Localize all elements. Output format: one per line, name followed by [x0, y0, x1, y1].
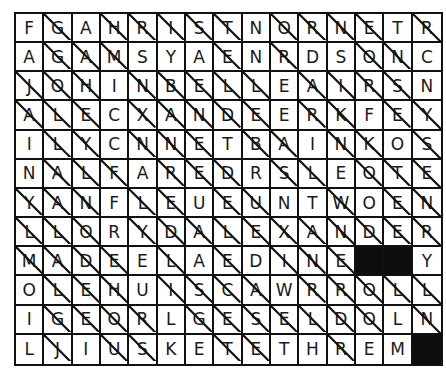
- grid-cell[interactable]: S: [413, 131, 441, 160]
- grid-cell[interactable]: H: [299, 335, 327, 364]
- grid-cell[interactable]: E: [73, 276, 101, 305]
- grid-cell[interactable]: D: [158, 218, 186, 247]
- grid-cell[interactable]: Y: [16, 189, 44, 218]
- grid-cell[interactable]: T: [214, 335, 242, 364]
- grid-cell[interactable]: C: [214, 276, 242, 305]
- grid-cell[interactable]: I: [158, 276, 186, 305]
- grid-cell[interactable]: N: [413, 72, 441, 101]
- grid-cell[interactable]: W: [271, 276, 299, 305]
- grid-cell[interactable]: N: [129, 131, 157, 160]
- grid-cell[interactable]: U: [243, 189, 271, 218]
- grid-cell[interactable]: M: [16, 247, 44, 276]
- grid-cell[interactable]: Y: [158, 43, 186, 72]
- grid-cell[interactable]: O: [44, 72, 72, 101]
- grid-cell[interactable]: L: [214, 218, 242, 247]
- grid-cell[interactable]: O: [356, 189, 384, 218]
- grid-cell[interactable]: J: [44, 335, 72, 364]
- grid-cell[interactable]: W: [328, 189, 356, 218]
- grid-cell[interactable]: N: [73, 189, 101, 218]
- grid-cell[interactable]: A: [44, 247, 72, 276]
- grid-cell[interactable]: I: [73, 335, 101, 364]
- grid-cell[interactable]: A: [299, 72, 327, 101]
- grid-cell[interactable]: E: [186, 131, 214, 160]
- grid-cell[interactable]: I: [299, 131, 327, 160]
- grid-cell[interactable]: G: [44, 43, 72, 72]
- grid-cell[interactable]: N: [158, 131, 186, 160]
- grid-cell[interactable]: L: [129, 189, 157, 218]
- grid-cell[interactable]: N: [413, 306, 441, 335]
- grid-cell[interactable]: Y: [413, 101, 441, 130]
- grid-cell[interactable]: O: [271, 14, 299, 43]
- grid-cell[interactable]: B: [158, 72, 186, 101]
- grid-cell[interactable]: R: [328, 276, 356, 305]
- grid-cell[interactable]: H: [73, 72, 101, 101]
- grid-cell[interactable]: K: [356, 131, 384, 160]
- grid-cell[interactable]: D: [328, 306, 356, 335]
- grid-cell[interactable]: T: [271, 335, 299, 364]
- grid-cell[interactable]: E: [271, 72, 299, 101]
- grid-cell[interactable]: A: [73, 14, 101, 43]
- grid-cell[interactable]: E: [101, 247, 129, 276]
- grid-cell[interactable]: U: [101, 335, 129, 364]
- grid-cell[interactable]: R: [356, 72, 384, 101]
- grid-cell[interactable]: T: [214, 14, 242, 43]
- grid-cell[interactable]: H: [101, 14, 129, 43]
- grid-cell[interactable]: L: [44, 101, 72, 130]
- grid-cell[interactable]: J: [16, 72, 44, 101]
- grid-cell[interactable]: I: [16, 131, 44, 160]
- grid-cell[interactable]: R: [413, 218, 441, 247]
- grid-cell[interactable]: L: [299, 160, 327, 189]
- grid-cell[interactable]: E: [186, 335, 214, 364]
- grid-cell[interactable]: S: [243, 306, 271, 335]
- grid-cell[interactable]: R: [101, 218, 129, 247]
- grid-cell[interactable]: N: [413, 189, 441, 218]
- grid-cell[interactable]: R: [158, 160, 186, 189]
- grid-cell[interactable]: C: [101, 101, 129, 130]
- grid-cell[interactable]: R: [328, 335, 356, 364]
- grid-cell[interactable]: Y: [413, 247, 441, 276]
- grid-cell[interactable]: I: [101, 72, 129, 101]
- grid-cell[interactable]: C: [413, 43, 441, 72]
- grid-cell[interactable]: E: [413, 160, 441, 189]
- grid-cell[interactable]: S: [384, 72, 412, 101]
- grid-cell[interactable]: E: [186, 72, 214, 101]
- grid-cell[interactable]: T: [384, 160, 412, 189]
- grid-cell[interactable]: R: [299, 276, 327, 305]
- grid-cell[interactable]: L: [299, 306, 327, 335]
- grid-cell[interactable]: E: [129, 247, 157, 276]
- grid-cell[interactable]: L: [243, 72, 271, 101]
- grid-cell[interactable]: A: [16, 43, 44, 72]
- grid-cell[interactable]: I: [271, 247, 299, 276]
- grid-cell[interactable]: Y: [129, 218, 157, 247]
- grid-cell[interactable]: E: [384, 218, 412, 247]
- grid-cell[interactable]: L: [384, 306, 412, 335]
- grid-cell[interactable]: D: [299, 43, 327, 72]
- grid-cell[interactable]: O: [356, 160, 384, 189]
- grid-cell[interactable]: L: [44, 131, 72, 160]
- grid-cell[interactable]: R: [243, 160, 271, 189]
- grid-cell[interactable]: F: [101, 160, 129, 189]
- grid-cell[interactable]: U: [186, 189, 214, 218]
- grid-cell[interactable]: D: [214, 101, 242, 130]
- grid-cell[interactable]: F: [16, 14, 44, 43]
- grid-cell[interactable]: S: [129, 43, 157, 72]
- grid-cell[interactable]: A: [186, 43, 214, 72]
- grid-cell[interactable]: E: [243, 218, 271, 247]
- grid-cell[interactable]: L: [73, 160, 101, 189]
- grid-cell[interactable]: R: [299, 14, 327, 43]
- grid-cell[interactable]: K: [158, 335, 186, 364]
- grid-cell[interactable]: M: [101, 43, 129, 72]
- grid-cell[interactable]: E: [158, 189, 186, 218]
- grid-cell[interactable]: R: [299, 101, 327, 130]
- grid-cell[interactable]: E: [328, 160, 356, 189]
- grid-cell[interactable]: O: [356, 276, 384, 305]
- grid-cell[interactable]: E: [243, 101, 271, 130]
- grid-cell[interactable]: A: [129, 160, 157, 189]
- grid-cell[interactable]: G: [44, 14, 72, 43]
- grid-cell[interactable]: T: [384, 14, 412, 43]
- grid-cell[interactable]: A: [186, 247, 214, 276]
- grid-cell[interactable]: I: [158, 14, 186, 43]
- grid-cell[interactable]: O: [356, 43, 384, 72]
- grid-cell[interactable]: D: [356, 218, 384, 247]
- grid-cell[interactable]: N: [16, 160, 44, 189]
